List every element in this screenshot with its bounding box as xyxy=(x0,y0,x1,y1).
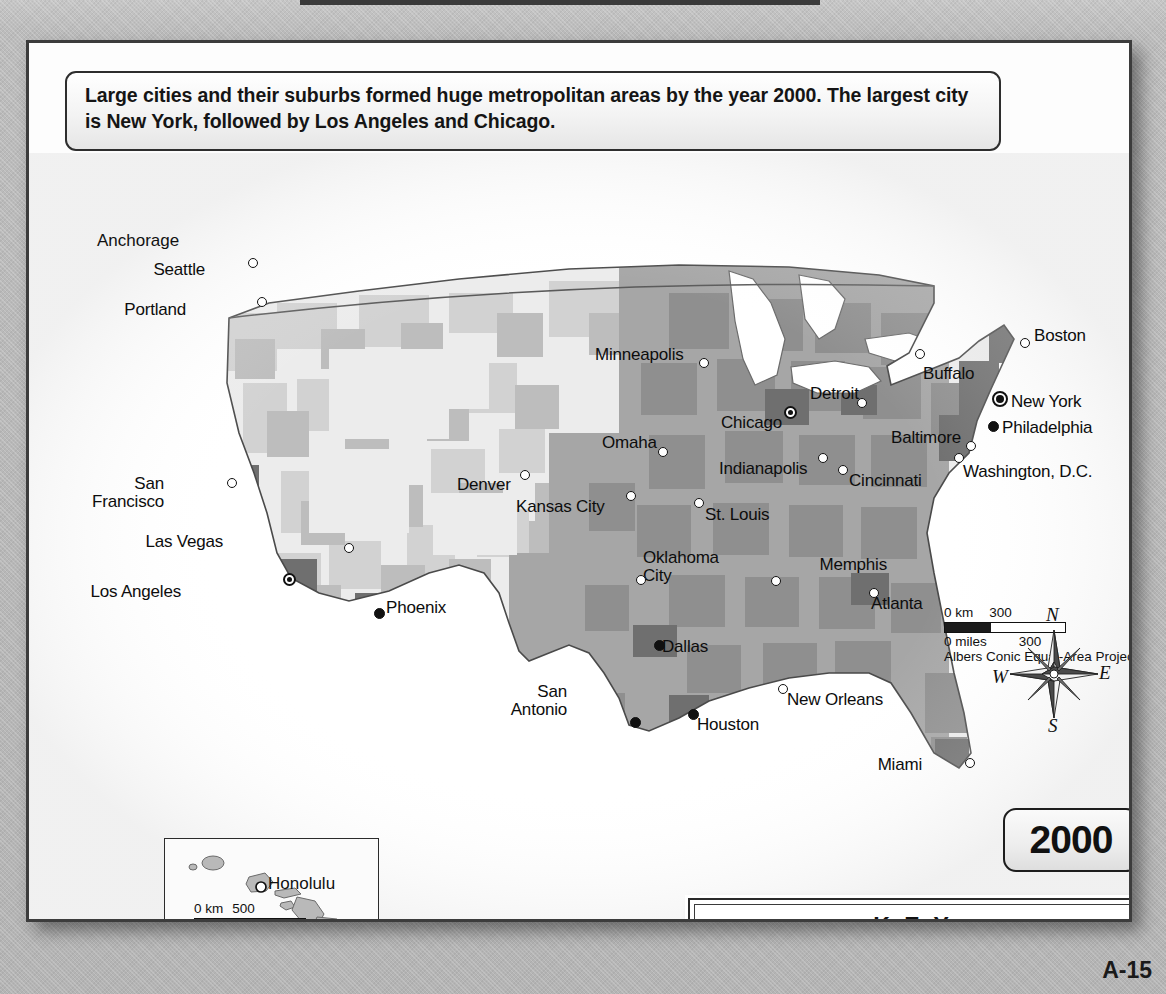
city-dot[interactable] xyxy=(954,453,964,463)
city-label: Houston xyxy=(697,716,759,734)
city-dot[interactable] xyxy=(227,478,237,488)
city-label: OklahomaCity xyxy=(643,549,719,585)
city-label: Buffalo xyxy=(923,365,974,383)
map-plate: Large cities and their suburbs formed hu… xyxy=(26,40,1132,922)
city-label: Minneapolis xyxy=(595,346,684,364)
ak-km-value: 500 xyxy=(232,901,255,917)
city-dot[interactable] xyxy=(257,297,267,307)
main-km-label: 0 km xyxy=(944,605,973,621)
city-label: Philadelphia xyxy=(1002,419,1092,437)
city-label: New York xyxy=(1011,393,1081,411)
alaska-city-label: Anchorage xyxy=(97,231,179,251)
city-dot[interactable] xyxy=(988,421,999,432)
city-dot[interactable] xyxy=(966,441,976,451)
page-number: A-15 xyxy=(1102,957,1152,984)
compass-north-label: N xyxy=(1046,604,1059,626)
city-label: Indianapolis xyxy=(719,460,807,478)
city-label: Cincinnati xyxy=(849,472,922,490)
city-label: Seattle xyxy=(153,261,205,279)
city-dot[interactable] xyxy=(869,588,879,598)
city-dot[interactable] xyxy=(699,358,709,368)
key-title: K E Y xyxy=(711,913,1115,919)
city-dot[interactable] xyxy=(771,576,781,586)
city-label: Portland xyxy=(124,301,186,319)
city-dot[interactable] xyxy=(838,465,848,475)
city-label: Baltimore xyxy=(891,429,961,447)
city-label: SanAntonio xyxy=(511,683,567,719)
city-label: Chicago xyxy=(721,414,782,432)
city-label: Omaha xyxy=(602,434,657,452)
city-dot[interactable] xyxy=(636,575,646,585)
compass-rose: N E S W xyxy=(994,608,1114,738)
compass-east-label: E xyxy=(1099,662,1111,684)
city-label: SanFrancisco xyxy=(92,475,164,511)
city-label: Denver xyxy=(457,476,511,494)
year-badge: 2000 xyxy=(1003,808,1129,872)
ak-km-label: 0 km xyxy=(194,901,223,917)
city-label: St. Louis xyxy=(705,506,769,524)
city-dot[interactable] xyxy=(248,258,258,268)
city-label: Atlanta xyxy=(871,595,923,613)
city-dot[interactable] xyxy=(784,406,797,419)
compass-south-label: S xyxy=(1048,715,1058,737)
top-edge-bar xyxy=(300,0,820,5)
city-label: Detroit xyxy=(810,385,859,403)
city-label: New Orleans xyxy=(787,691,883,709)
city-dot[interactable] xyxy=(344,543,354,553)
city-dot[interactable] xyxy=(1020,338,1030,348)
hawaii-city-label: Honolulu xyxy=(268,874,335,894)
main-mi-label: 0 miles xyxy=(944,634,987,650)
city-dot[interactable] xyxy=(658,447,668,457)
city-label: Los Angeles xyxy=(91,583,181,601)
city-dot[interactable] xyxy=(654,640,665,651)
city-dot[interactable] xyxy=(630,717,641,728)
city-dot[interactable] xyxy=(818,453,828,463)
city-dot[interactable] xyxy=(374,608,385,619)
city-dot[interactable] xyxy=(778,684,788,694)
city-dot[interactable] xyxy=(992,391,1008,407)
map-key: K E Y Population per square mile More th… xyxy=(688,898,1129,919)
city-label: Washington, D.C. xyxy=(963,463,1092,481)
city-label: Kansas City xyxy=(516,498,605,516)
city-dot[interactable] xyxy=(857,398,867,408)
city-label: Boston xyxy=(1034,327,1086,345)
city-dot[interactable] xyxy=(694,498,704,508)
city-dot[interactable] xyxy=(915,349,925,359)
alaska-scale-bar: 0 km 500 0 miles 500 Albers Conic Equal-… xyxy=(194,901,406,919)
city-label: Memphis xyxy=(819,556,887,574)
city-label: Miami xyxy=(878,756,922,774)
city-dot[interactable] xyxy=(688,709,699,720)
city-dot[interactable] xyxy=(283,573,296,586)
city-label: Phoenix xyxy=(386,599,446,617)
city-label: Las Vegas xyxy=(145,533,223,551)
city-label: Dallas xyxy=(662,638,708,656)
city-dot[interactable] xyxy=(520,470,530,480)
city-dot[interactable] xyxy=(626,491,636,501)
compass-west-label: W xyxy=(992,666,1008,688)
map-canvas[interactable]: SeattlePortlandSanFranciscoLos AngelesLa… xyxy=(29,153,1129,919)
city-dot[interactable] xyxy=(965,758,975,768)
map-caption: Large cities and their suburbs formed hu… xyxy=(65,71,1001,151)
